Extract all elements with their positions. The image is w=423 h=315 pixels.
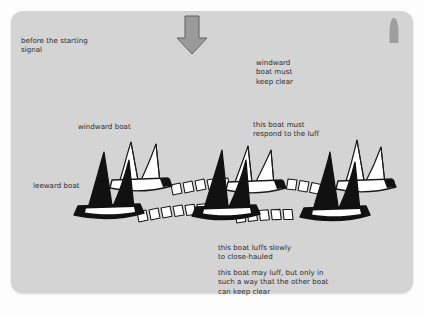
caption-leeward-boat: leeward boat <box>33 181 80 190</box>
caption-may-luff-other-boat-keep-clear: this boat may luff, but only in such a w… <box>218 268 328 296</box>
caption-before-starting-signal: before the starting signal <box>21 36 88 55</box>
diagram-stage: before the starting signal windward boat… <box>0 0 423 315</box>
caption-windward-boat: windward boat <box>78 122 131 131</box>
caption-luffs-slowly-to-close-hauled: this boat luffs slowly to close-hauled <box>218 243 291 262</box>
caption-respond-to-the-luff: this boat must respond to the luff <box>253 120 319 139</box>
caption-windward-boat-must-keep-clear: windward boat must keep clear <box>256 58 293 86</box>
